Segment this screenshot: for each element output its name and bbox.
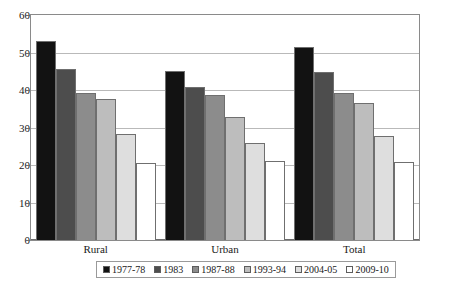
legend-label: 1993-94 <box>253 265 286 275</box>
bar-total-1977-78 <box>294 47 314 240</box>
bar-rural-2009-10 <box>136 163 156 240</box>
bar-group-rural <box>31 15 160 240</box>
bar-rural-2004-05 <box>116 134 136 240</box>
legend-swatch-icon <box>244 266 251 273</box>
legend-label: 1977-78 <box>112 265 145 275</box>
legend-label: 2009-10 <box>355 265 388 275</box>
bar-urban-1993-94 <box>225 117 245 240</box>
bar-rural-1983 <box>56 69 76 240</box>
bar-urban-1983 <box>185 87 205 240</box>
bar-urban-2004-05 <box>245 143 265 241</box>
bar-rural-1987-88 <box>76 93 96 240</box>
legend-item-1977-78[interactable]: 1977-78 <box>103 265 145 275</box>
legend-item-1983[interactable]: 1983 <box>154 265 183 275</box>
legend-item-2009-10[interactable]: 2009-10 <box>346 265 388 275</box>
bar-rural-1977-78 <box>36 41 56 240</box>
bar-rural-1993-94 <box>96 99 116 240</box>
legend-swatch-icon <box>154 266 161 273</box>
x-label-rural: Rural <box>31 243 160 259</box>
x-axis-labels: RuralUrbanTotal <box>31 243 419 259</box>
bar-total-1993-94 <box>354 103 374 240</box>
bar-urban-1987-88 <box>205 95 225 241</box>
bar-total-2004-05 <box>374 136 394 240</box>
legend-swatch-icon <box>346 266 353 273</box>
bar-chart: 0102030405060 RuralUrbanTotal 1977-78198… <box>0 0 450 294</box>
bar-urban-1977-78 <box>165 71 185 241</box>
legend-swatch-icon <box>103 266 110 273</box>
bar-group-urban <box>160 15 289 240</box>
x-label-urban: Urban <box>160 243 289 259</box>
legend-label: 2004-05 <box>304 265 337 275</box>
chart-legend: 1977-7819831987-881993-942004-052009-10 <box>96 261 396 278</box>
legend-label: 1987-88 <box>201 265 234 275</box>
legend-label: 1983 <box>163 265 183 275</box>
bar-total-1983 <box>314 72 334 240</box>
legend-item-2004-05[interactable]: 2004-05 <box>295 265 337 275</box>
bar-urban-2009-10 <box>265 161 285 240</box>
bar-groups <box>31 15 419 240</box>
legend-swatch-icon <box>295 266 302 273</box>
y-axis: 0102030405060 <box>0 14 30 241</box>
bar-total-2009-10 <box>394 162 414 240</box>
x-label-total: Total <box>290 243 419 259</box>
legend-item-1987-88[interactable]: 1987-88 <box>192 265 234 275</box>
legend-swatch-icon <box>192 266 199 273</box>
bar-total-1987-88 <box>334 93 354 240</box>
legend-item-1993-94[interactable]: 1993-94 <box>244 265 286 275</box>
bar-group-total <box>290 15 419 240</box>
